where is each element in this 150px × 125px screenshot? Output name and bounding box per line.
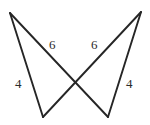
segment-left-hypotenuse: [10, 13, 108, 117]
segment-left-leg: [10, 13, 43, 117]
geometry-figure: 6 6 4 4: [0, 0, 150, 125]
label-left-hypotenuse-length: 6: [49, 38, 56, 51]
label-right-hypotenuse-length: 6: [91, 38, 98, 51]
figure-canvas: [0, 0, 150, 125]
label-right-leg-length: 4: [126, 77, 133, 90]
segment-right-leg: [108, 12, 141, 117]
label-left-leg-length: 4: [15, 77, 22, 90]
